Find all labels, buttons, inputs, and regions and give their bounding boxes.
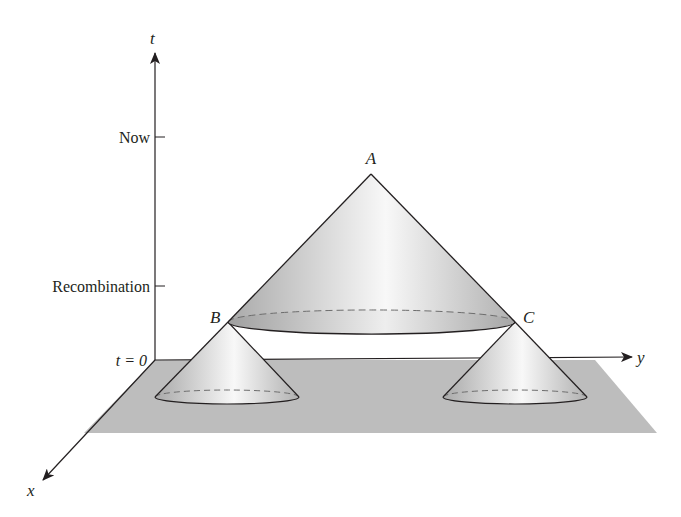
t-axis-label: t — [150, 29, 156, 48]
diagram-canvas: t y x Now Recombination t = 0 A B C — [0, 0, 681, 517]
point-b-label: B — [210, 308, 221, 327]
point-a-label: A — [365, 149, 377, 168]
t0-label: t = 0 — [116, 352, 147, 369]
y-axis-label: y — [635, 348, 645, 367]
now-label: Now — [119, 129, 151, 146]
point-c-label: C — [523, 308, 535, 327]
light-cone-diagram: t y x Now Recombination t = 0 A B C — [0, 0, 681, 517]
recombination-label: Recombination — [52, 278, 150, 295]
x-axis-label: x — [26, 481, 35, 500]
cone-a — [228, 174, 515, 334]
